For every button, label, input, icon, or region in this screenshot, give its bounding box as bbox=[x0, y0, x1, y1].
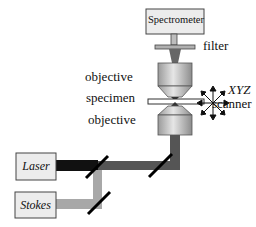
objective-bottom-body bbox=[158, 115, 192, 135]
objective-top-nose bbox=[158, 86, 192, 97]
stokes-label: Stokes bbox=[15, 199, 56, 211]
spectrometer-stem bbox=[171, 34, 177, 45]
objective-bottom-nose bbox=[158, 106, 192, 115]
objective-top-label: objective bbox=[85, 70, 133, 83]
objective-top-body bbox=[158, 63, 192, 86]
laser-beam bbox=[56, 160, 98, 171]
laser-label: Laser bbox=[16, 160, 56, 172]
scanner-label: scanner bbox=[212, 97, 252, 110]
filter-label: filter bbox=[203, 39, 228, 52]
objective-bottom-label: objective bbox=[88, 113, 136, 126]
specimen-label: specimen bbox=[86, 91, 135, 104]
collection-beam bbox=[169, 49, 181, 63]
filter-plate bbox=[155, 45, 195, 49]
scanner-label-xyz: XYZ bbox=[228, 83, 250, 96]
combined-beam-horizontal bbox=[95, 161, 180, 170]
spectrometer-label: Spectrometer bbox=[148, 15, 202, 26]
